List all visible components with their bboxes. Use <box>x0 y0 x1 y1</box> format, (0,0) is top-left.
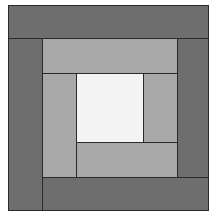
inner-left-band <box>42 73 77 178</box>
outer-right-band <box>177 38 209 178</box>
center-square <box>76 73 144 143</box>
inner-top-band <box>42 38 178 74</box>
inner-right-band <box>143 73 178 143</box>
outer-top-band <box>8 5 209 39</box>
quilt-block <box>8 5 209 211</box>
outer-left-band <box>8 38 43 211</box>
inner-bottom-band <box>76 142 178 178</box>
outer-bottom-band <box>42 177 209 211</box>
